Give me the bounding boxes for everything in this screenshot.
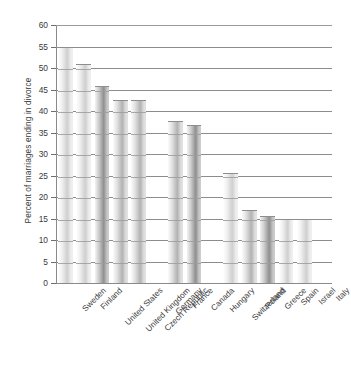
y-axis-tick-label: 0 (8, 279, 48, 287)
bar-gridline-dash (187, 155, 202, 156)
bar[interactable] (168, 121, 183, 283)
bar-gridline-dash (131, 198, 146, 199)
bar[interactable] (242, 210, 257, 283)
y-axis-tick-label: 55 (8, 42, 48, 50)
bar-gridline-dash (95, 241, 110, 242)
bar-gridline-dash (187, 177, 202, 178)
bar-gridline-dash (58, 69, 73, 70)
bar[interactable] (95, 86, 110, 283)
bar-gridline-dash (131, 263, 146, 264)
bar-gridline-dash (260, 220, 275, 221)
bar-gridline-dash (260, 263, 275, 264)
bar-slot (297, 25, 312, 283)
bar[interactable] (131, 100, 146, 283)
bar-gridline-dash (242, 220, 257, 221)
x-axis-line (56, 283, 332, 284)
bar-gridline-dash (131, 177, 146, 178)
bar-gridline-dash (223, 220, 238, 221)
bar-gridline-dash (131, 112, 146, 113)
bar-slot (58, 25, 73, 283)
bar-slot (168, 25, 183, 283)
bar-gridline-dash (168, 134, 183, 135)
y-axis-tick-label: 50 (8, 64, 48, 72)
bar-gridline-dash (95, 220, 110, 221)
bar-slot (279, 25, 294, 283)
bar-gridline-dash (113, 198, 128, 199)
bar-gridline-dash (242, 263, 257, 264)
bar-gridline-dash (113, 112, 128, 113)
bar-gridline-dash (95, 91, 110, 92)
x-axis-labels: SwedenFinlandUnited StatesUnited Kingdom… (56, 286, 346, 365)
y-axis-tick-label: 40 (8, 107, 48, 115)
bar-gridline-dash (58, 263, 73, 264)
bar-gridline-dash (58, 134, 73, 135)
bar-gridline-dash (76, 241, 91, 242)
bar-gridline-dash (76, 263, 91, 264)
y-axis-tick-label: 20 (8, 193, 48, 201)
bar-gridline-dash (168, 220, 183, 221)
y-axis-tick-label: 25 (8, 171, 48, 179)
bar[interactable] (279, 219, 294, 284)
y-axis-tick (51, 283, 56, 284)
bar-gridline-dash (187, 134, 202, 135)
bar-gridline-dash (95, 134, 110, 135)
bar-gridline-dash (58, 91, 73, 92)
bar-slot (76, 25, 91, 283)
bar[interactable] (58, 47, 73, 284)
bar-gridline-dash (76, 177, 91, 178)
bar-gridline-dash (76, 220, 91, 221)
bar-gridline-dash (223, 198, 238, 199)
bar-gridline-dash (58, 220, 73, 221)
bar-gridline-dash (187, 241, 202, 242)
bar-gridline-dash (113, 220, 128, 221)
y-axis-tick-label: 35 (8, 128, 48, 136)
bar-gridline-dash (58, 198, 73, 199)
bar-gridline-dash (279, 241, 294, 242)
bar-gridline-dash (168, 177, 183, 178)
bar-gridline-dash (113, 155, 128, 156)
bar-gridline-dash (131, 241, 146, 242)
bar-gridline-dash (223, 263, 238, 264)
bar-slot (113, 25, 128, 283)
bar-gridline-dash (260, 241, 275, 242)
bar[interactable] (260, 216, 275, 284)
bar-gridline-dash (113, 177, 128, 178)
bar-slot (260, 25, 275, 283)
bar-slot (150, 25, 165, 283)
bar-gridline-dash (76, 112, 91, 113)
bar-gridline-dash (187, 198, 202, 199)
bars-group (56, 25, 332, 283)
plot-area: 051015202530354045505560 (56, 25, 332, 284)
bar-gridline-dash (187, 220, 202, 221)
bar-gridline-dash (297, 263, 312, 264)
bar-gridline-dash (242, 241, 257, 242)
bar-gridline-dash (76, 91, 91, 92)
bar-gridline-dash (76, 134, 91, 135)
bar[interactable] (76, 64, 91, 283)
bar-gridline-dash (223, 177, 238, 178)
bar-slot (205, 25, 220, 283)
bar-slot (187, 25, 202, 283)
bar[interactable] (223, 173, 238, 283)
bar-gridline-dash (297, 241, 312, 242)
bar-slot (223, 25, 238, 283)
bar-gridline-dash (168, 241, 183, 242)
bar-gridline-dash (76, 155, 91, 156)
bar-gridline-dash (76, 198, 91, 199)
bar-gridline-dash (168, 263, 183, 264)
bar-gridline-dash (131, 220, 146, 221)
bar-gridline-dash (223, 241, 238, 242)
y-axis-tick-label: 10 (8, 236, 48, 244)
bar-gridline-dash (113, 263, 128, 264)
y-axis-tick-label: 30 (8, 150, 48, 158)
bar[interactable] (113, 100, 128, 283)
bar-gridline-dash (95, 263, 110, 264)
bar-gridline-dash (131, 134, 146, 135)
bar-slot (242, 25, 257, 283)
bar[interactable] (297, 219, 312, 283)
bar[interactable] (187, 125, 202, 283)
x-axis-label: Italy (334, 286, 351, 303)
bar-gridline-dash (58, 177, 73, 178)
bar-gridline-dash (113, 134, 128, 135)
